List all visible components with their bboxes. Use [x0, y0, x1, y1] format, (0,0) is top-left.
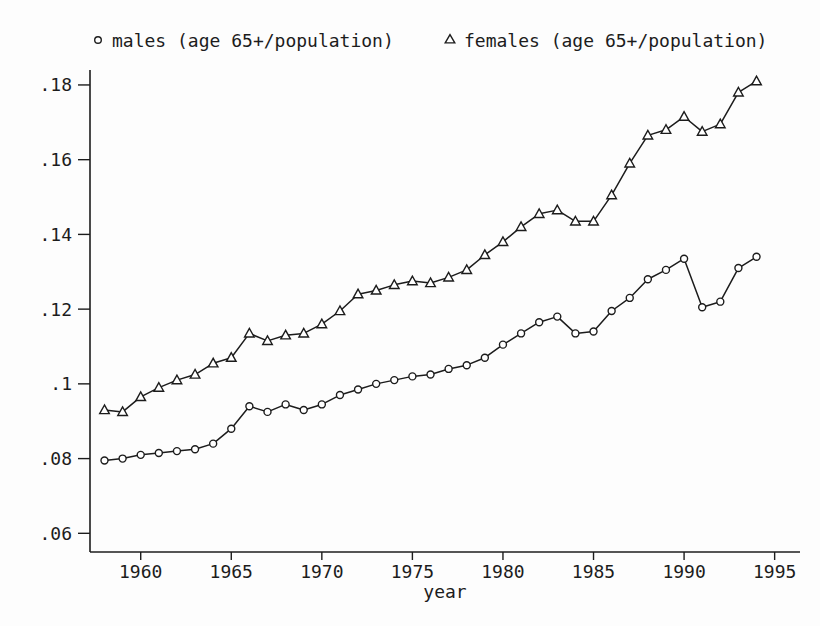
triangle-data-marker — [661, 125, 671, 134]
circle-data-marker — [518, 330, 525, 337]
y-tick-label: .18 — [39, 74, 72, 95]
triangle-data-marker — [752, 76, 762, 85]
circle-data-marker — [318, 401, 325, 408]
triangle-data-marker — [299, 328, 309, 337]
circle-data-marker — [427, 371, 434, 378]
triangle-data-marker — [516, 222, 526, 231]
x-axis-title: year — [423, 581, 467, 602]
circle-data-marker — [608, 308, 615, 315]
circle-data-marker — [590, 328, 597, 335]
legend-triangle-marker-icon — [445, 35, 455, 43]
circle-data-marker — [264, 408, 271, 415]
circle-data-marker — [391, 377, 398, 384]
triangle-data-marker — [679, 112, 689, 121]
circle-data-marker — [536, 319, 543, 326]
y-axis-ticks: .06.08.1.12.14.16.18 — [39, 74, 90, 543]
y-tick-label: .08 — [39, 448, 72, 469]
series-layer — [100, 76, 762, 464]
circle-data-marker — [681, 255, 688, 262]
y-tick-label: .1 — [50, 373, 72, 394]
triangle-data-marker — [716, 119, 726, 128]
circle-data-marker — [155, 449, 162, 456]
triangle-data-marker — [317, 319, 327, 328]
y-tick-label: .16 — [39, 149, 72, 170]
circle-data-marker — [753, 253, 760, 260]
circle-data-marker — [210, 440, 217, 447]
chart-canvas: males (age 65+/population) females (age … — [0, 0, 820, 626]
triangle-data-marker — [734, 87, 744, 96]
y-tick-label: .14 — [39, 224, 72, 245]
triangle-data-marker — [136, 392, 146, 401]
circle-data-marker — [373, 380, 380, 387]
circle-data-marker — [355, 386, 362, 393]
x-tick-label: 1990 — [662, 561, 705, 582]
circle-data-marker — [735, 265, 742, 272]
x-tick-label: 1970 — [300, 561, 343, 582]
circle-data-marker — [101, 457, 108, 464]
triangle-data-marker — [190, 370, 200, 379]
triangle-data-marker — [408, 276, 418, 285]
x-tick-label: 1980 — [481, 561, 524, 582]
circle-data-marker — [336, 392, 343, 399]
circle-data-marker — [699, 304, 706, 311]
circle-data-marker — [662, 266, 669, 273]
circle-data-marker — [572, 330, 579, 337]
triangle-data-marker — [100, 405, 110, 414]
circle-data-marker — [463, 362, 470, 369]
circle-data-marker — [499, 341, 506, 348]
series-line-triangle — [104, 81, 756, 412]
circle-data-marker — [300, 407, 307, 414]
population-65plus-line-chart: males (age 65+/population) females (age … — [0, 0, 820, 626]
x-tick-label: 1985 — [572, 561, 615, 582]
x-axis-ticks: 19601965197019751980198519901995 — [119, 552, 796, 582]
triangle-data-marker — [480, 250, 490, 259]
circle-data-marker — [481, 354, 488, 361]
x-tick-label: 1960 — [119, 561, 162, 582]
circle-data-marker — [409, 373, 416, 380]
circle-data-marker — [228, 425, 235, 432]
legend-label-males: males (age 65+/population) — [112, 30, 394, 51]
circle-data-marker — [445, 365, 452, 372]
circle-data-marker — [282, 401, 289, 408]
circle-data-marker — [137, 451, 144, 458]
circle-data-marker — [644, 276, 651, 283]
triangle-data-marker — [245, 328, 255, 337]
circle-data-marker — [119, 455, 126, 462]
circle-data-marker — [717, 298, 724, 305]
series-line-circle — [104, 257, 756, 461]
circle-data-marker — [173, 448, 180, 455]
circle-data-marker — [554, 313, 561, 320]
triangle-data-marker — [607, 190, 617, 199]
legend-circle-marker-icon — [95, 37, 102, 44]
x-tick-label: 1975 — [391, 561, 434, 582]
y-tick-label: .06 — [39, 523, 72, 544]
triangle-data-marker — [625, 158, 635, 167]
x-tick-label: 1965 — [210, 561, 253, 582]
legend: males (age 65+/population) females (age … — [95, 30, 768, 51]
y-tick-label: .12 — [39, 299, 72, 320]
legend-label-females: females (age 65+/population) — [464, 30, 767, 51]
circle-data-marker — [626, 294, 633, 301]
x-tick-label: 1995 — [753, 561, 796, 582]
circle-data-marker — [192, 446, 199, 453]
circle-data-marker — [246, 403, 253, 410]
triangle-data-marker — [552, 205, 562, 214]
